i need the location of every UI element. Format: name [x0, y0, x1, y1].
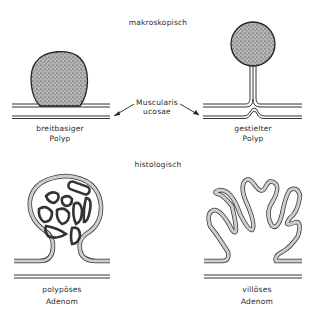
polyp-diagram — [0, 0, 316, 313]
muscularis-label-line1: Muscularis — [132, 98, 182, 107]
polypous-adenoma-illustration — [14, 176, 110, 278]
broad-based-polyp-label-line2: Polyp — [30, 134, 90, 143]
villous-adenoma-label-line1: villöses — [227, 285, 287, 294]
pedunculated-polyp-label-line1: gestielter — [223, 124, 283, 133]
muscularis-label-line2: ucosae — [132, 107, 182, 116]
polypous-adenoma-label-line1: polypöses — [32, 285, 92, 294]
heading-histological: histologisch — [118, 160, 198, 169]
pedunculated-polyp-illustration — [203, 22, 302, 119]
pedunculated-polyp-label-line2: Polyp — [223, 134, 283, 143]
villous-adenoma-illustration — [204, 179, 302, 278]
heading-macroscopic: makroskopisch — [118, 18, 198, 27]
polypous-adenoma-label-line2: Adenom — [32, 297, 92, 306]
villous-adenoma-label-line2: Adenom — [227, 297, 287, 306]
broad-based-polyp-label-line1: breitbasiger — [30, 124, 90, 133]
broad-based-polyp-illustration — [12, 52, 110, 119]
